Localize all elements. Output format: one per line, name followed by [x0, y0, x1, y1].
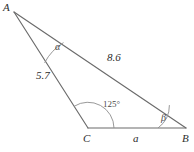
- angle-label-alpha: α: [55, 42, 60, 52]
- edge-A-to-C: [14, 12, 88, 128]
- angle-label-beta: β: [161, 113, 166, 123]
- figure-canvas: A C B 8.6 5.7 a α 125° β: [0, 0, 194, 152]
- vertex-label-B: B: [182, 133, 189, 144]
- triangle-diagram: [0, 0, 194, 152]
- side-label-AB: 8.6: [107, 52, 121, 63]
- vertex-label-C: C: [83, 133, 90, 144]
- side-label-AC: 5.7: [36, 70, 50, 81]
- angle-label-125-degrees: 125°: [103, 100, 120, 109]
- degree-symbol: °: [117, 99, 121, 109]
- side-label-CB: a: [133, 133, 139, 144]
- vertex-label-A: A: [3, 2, 10, 13]
- angle-value-125: 125: [103, 99, 117, 109]
